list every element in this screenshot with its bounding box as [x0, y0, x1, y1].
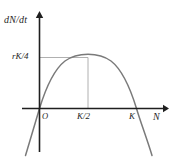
- x-tick-label-half-capacity: K/2: [77, 111, 90, 121]
- y-tick-label-peak-value: rK/4: [12, 51, 29, 61]
- x-axis-arrowhead-icon: [163, 105, 169, 112]
- origin-label: O: [42, 111, 48, 121]
- logistic-growth-curve: [26, 54, 153, 155]
- guide-lines: [40, 58, 88, 109]
- y-axis-arrowhead-icon: [36, 11, 43, 18]
- y-axis: [36, 11, 43, 152]
- x-tick-label-carrying-capacity: K: [129, 111, 135, 121]
- x-axis-title: N: [153, 111, 160, 122]
- y-axis-title: dN/dt: [4, 14, 27, 25]
- logistic-growth-figure: dN/dt rK/4 O K/2 K N: [0, 0, 172, 158]
